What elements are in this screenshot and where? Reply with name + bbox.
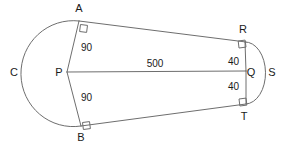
tangent-segment-bt	[81, 104, 246, 126]
measure-label-radius-qr: 40	[228, 56, 240, 67]
vertex-label-c: C	[10, 66, 18, 78]
measure-label-radius-pa: 90	[81, 42, 93, 53]
vertex-label-p: P	[55, 66, 62, 78]
measure-label-radius-pb: 90	[81, 92, 93, 103]
vertex-label-b: B	[77, 131, 84, 143]
vertex-label-t: T	[241, 110, 248, 122]
arc-acb	[21, 21, 81, 127]
vertex-label-q: Q	[247, 66, 256, 78]
right-angle-marker-a	[80, 25, 88, 33]
geometry-canvas: A B C P Q R S T 90 90 40 40 500	[0, 0, 286, 144]
vertex-label-s: S	[268, 66, 275, 78]
center-segment-pq	[67, 71, 246, 72]
vertex-label-a: A	[75, 2, 83, 14]
measure-label-radius-qt: 40	[228, 81, 240, 92]
tangent-segment-ar	[79, 21, 246, 42]
radius-segment-pb	[67, 72, 81, 126]
radius-segment-pa	[67, 21, 79, 72]
measure-label-center-distance: 500	[147, 58, 164, 69]
vertex-label-r: R	[239, 23, 247, 35]
geometry-diagram: A B C P Q R S T 90 90 40 40 500	[0, 0, 286, 144]
